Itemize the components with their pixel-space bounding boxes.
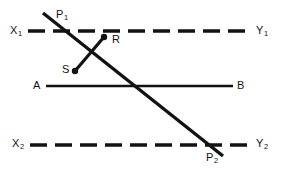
label-r: R xyxy=(112,34,120,45)
label-p1-sub: 1 xyxy=(64,13,68,22)
label-p1: P1 xyxy=(56,9,68,20)
label-y1-sub: 1 xyxy=(264,29,268,38)
label-x1: X1 xyxy=(10,25,22,36)
label-x2: X2 xyxy=(12,138,24,149)
label-y1: Y1 xyxy=(256,25,268,36)
label-r-base: R xyxy=(112,33,120,45)
label-p2-sub: 2 xyxy=(214,156,218,165)
label-p2: P2 xyxy=(206,152,218,163)
label-s: S xyxy=(62,64,70,75)
label-b-base: B xyxy=(237,79,245,91)
label-x1-base: X xyxy=(10,24,18,36)
label-a-base: A xyxy=(33,79,41,91)
label-x2-sub: 2 xyxy=(20,142,24,151)
geometry-diagram: X1 Y1 P1 R S A B X2 Y2 P2 xyxy=(0,0,283,173)
label-y1-base: Y xyxy=(256,24,264,36)
label-a: A xyxy=(33,80,41,91)
label-x2-base: X xyxy=(12,137,20,149)
label-y2: Y2 xyxy=(256,138,268,149)
endpoint-dot-s xyxy=(72,68,78,74)
label-b: B xyxy=(237,80,245,91)
transversal-line-p1-p2 xyxy=(43,13,223,156)
label-y2-sub: 2 xyxy=(264,142,268,151)
label-p1-base: P xyxy=(56,8,64,20)
endpoint-dot-r xyxy=(101,34,107,40)
label-y2-base: Y xyxy=(256,137,264,149)
label-p2-base: P xyxy=(206,151,214,163)
label-s-base: S xyxy=(62,63,70,75)
label-x1-sub: 1 xyxy=(18,29,22,38)
